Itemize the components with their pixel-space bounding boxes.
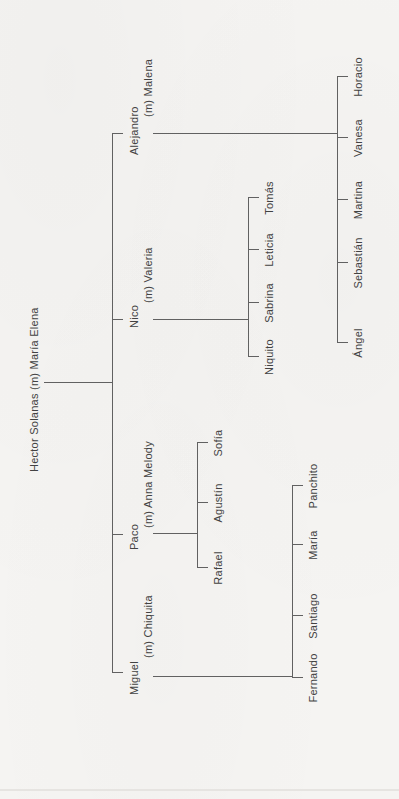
person-miguel: Miguel <box>128 661 141 695</box>
page-edge-shadow <box>0 789 399 791</box>
person-alejandro: Alejandro <box>128 106 141 155</box>
tick-rafael <box>197 567 208 568</box>
miguel-children-bar <box>292 485 293 678</box>
spouse-miguel: (m) Chiquita <box>142 595 155 658</box>
stem-nico <box>153 319 248 320</box>
person-nico: Nico <box>128 305 141 328</box>
alejandro-children-bar <box>337 76 338 343</box>
tick-nico <box>112 319 123 320</box>
tick-santiago <box>292 615 303 616</box>
person-panchito: Panchito <box>307 464 320 509</box>
stem-alejandro <box>153 133 337 134</box>
tick-sebastian <box>337 262 348 263</box>
tick-fernando <box>292 677 303 678</box>
tick-horacio <box>337 76 348 77</box>
person-maria: María <box>307 530 320 559</box>
tick-agustin <box>197 502 208 503</box>
gen2-sibling-bar <box>112 133 113 673</box>
tick-alejandro <box>112 133 123 134</box>
nico-children-bar <box>248 197 249 357</box>
spouse-alejandro: (m) Malena <box>142 59 155 117</box>
tick-niquito <box>248 356 259 357</box>
spouse-nico: (m) Valeria <box>142 247 155 303</box>
rotated-canvas: Hector Solanas (m) María Elena Miguel (m… <box>0 0 399 799</box>
family-tree-diagram: Hector Solanas (m) María Elena Miguel (m… <box>0 0 399 799</box>
person-sebastian: Sebastián <box>352 237 365 288</box>
scanned-page: Hector Solanas (m) María Elena Miguel (m… <box>0 0 399 799</box>
tick-angel <box>337 342 348 343</box>
tick-maria <box>292 544 303 545</box>
person-root-couple: Hector Solanas (m) María Elena <box>28 307 41 472</box>
person-vanesa: Vanesa <box>352 119 365 157</box>
person-sofia: Sofía <box>212 430 225 457</box>
person-rafael: Rafael <box>212 551 225 584</box>
person-paco: Paco <box>128 524 141 550</box>
tick-panchito <box>292 485 303 486</box>
stem-paco <box>153 533 197 534</box>
person-horacio: Horacio <box>352 57 365 97</box>
tick-sabrina <box>248 302 259 303</box>
stem-miguel <box>153 676 292 677</box>
person-fernando: Fernando <box>307 653 320 702</box>
tick-vanesa <box>337 137 348 138</box>
tick-miguel <box>112 672 123 673</box>
root-stem-line <box>44 382 112 383</box>
person-tomas: Tomás <box>263 181 276 215</box>
person-leticia: Leticia <box>263 233 276 267</box>
tick-paco <box>112 534 123 535</box>
person-agustin: Agustín <box>212 483 225 522</box>
person-santiago: Santiago <box>307 593 320 638</box>
tick-martina <box>337 199 348 200</box>
person-martina: Martina <box>352 181 365 219</box>
tick-leticia <box>248 249 259 250</box>
spouse-paco: (m) Anna Melody <box>142 441 155 528</box>
person-sabrina: Sabrina <box>263 283 276 323</box>
tick-sofia <box>197 442 208 443</box>
person-angel: Ángel <box>352 328 365 357</box>
tick-tomas <box>248 197 259 198</box>
paco-children-bar <box>197 442 198 568</box>
person-niquito: Niquito <box>263 339 276 375</box>
